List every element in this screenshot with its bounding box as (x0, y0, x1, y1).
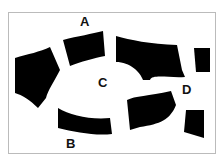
river-segment-west (15, 47, 60, 108)
river-segment-north-west (63, 31, 105, 66)
label-d: D (182, 82, 191, 97)
river-segment-east-lower (184, 110, 204, 138)
label-a: A (80, 14, 89, 29)
river-segment-south (127, 91, 176, 130)
river-segment-south-west (58, 108, 112, 135)
label-c: C (98, 75, 107, 90)
label-b: B (66, 136, 75, 151)
river-segment-north (116, 36, 185, 80)
river-segment-east-upper (194, 48, 210, 72)
